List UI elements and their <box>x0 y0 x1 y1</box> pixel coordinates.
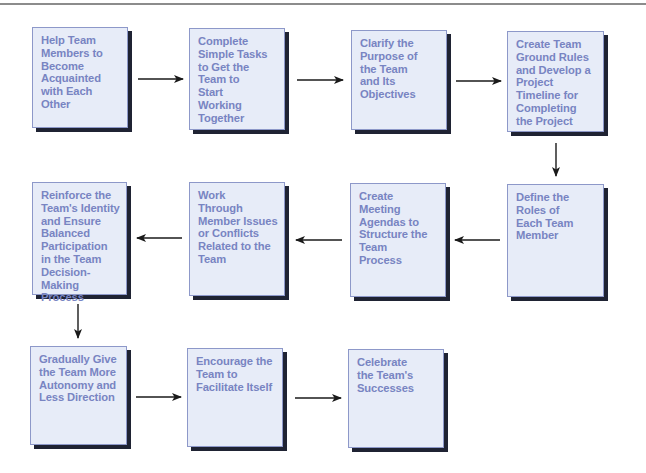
step-2-box: Complete Simple Tasks to Get the Team to… <box>189 28 285 130</box>
step-7-label: Work Through Member Issues or Conflicts … <box>198 189 279 266</box>
top-rule <box>0 3 646 5</box>
step-1-label: Help Team Members to Become Acquainted w… <box>41 34 122 111</box>
step-4-label: Create Team Ground Rules and Develop a P… <box>516 38 598 128</box>
step-1-box: Help Team Members to Become Acquainted w… <box>32 27 128 128</box>
step-3-box: Clarify the Purpose of the Team and Its … <box>351 30 447 130</box>
step-8-box: Reinforce the Team's Identity and Ensure… <box>32 182 127 295</box>
step-11-label: Celebrate the Team's Successes <box>357 356 438 394</box>
step-6-label: Create Meeting Agendas to Structure the … <box>359 190 440 267</box>
step-3-label: Clarify the Purpose of the Team and Its … <box>360 37 441 101</box>
step-10-label: Encourage the Team to Facilitate Itself <box>196 355 277 393</box>
step-4-box: Create Team Ground Rules and Develop a P… <box>507 31 604 132</box>
step-2-label: Complete Simple Tasks to Get the Team to… <box>198 35 279 125</box>
step-5-box: Define the Roles of Each Team Member <box>507 184 604 297</box>
step-10-box: Encourage the Team to Facilitate Itself <box>187 348 283 447</box>
step-9-label: Gradually Give the Team More Autonomy an… <box>39 353 121 404</box>
step-5-label: Define the Roles of Each Team Member <box>516 191 598 242</box>
step-9-box: Gradually Give the Team More Autonomy an… <box>30 346 127 445</box>
step-6-box: Create Meeting Agendas to Structure the … <box>350 183 446 297</box>
step-7-box: Work Through Member Issues or Conflicts … <box>189 182 285 296</box>
step-8-label: Reinforce the Team's Identity and Ensure… <box>41 189 121 304</box>
step-11-box: Celebrate the Team's Successes <box>348 349 444 448</box>
